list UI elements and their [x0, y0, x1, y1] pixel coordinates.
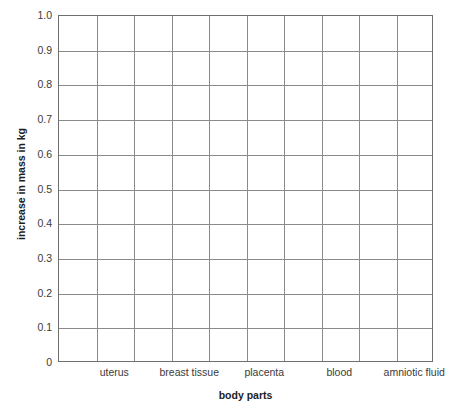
plot-grid-area [58, 15, 433, 362]
x-tick-label-uterus: uterus [100, 366, 129, 378]
gridline-vertical [247, 16, 248, 361]
gridline-vertical [134, 16, 135, 361]
gridline-horizontal [59, 155, 432, 156]
gridline-horizontal [59, 120, 432, 121]
y-axis-tick-labels: 1.0 0.9 0.8 0.7 0.6 0.5 0.4 0.3 0.2 0.1 … [0, 0, 56, 415]
y-tick-label: 0.1 [0, 322, 52, 333]
y-tick-label: 0.9 [0, 44, 52, 55]
gridline-vertical [322, 16, 323, 361]
y-axis-title: increase in mass in kg [15, 84, 27, 284]
gridline-vertical [97, 16, 98, 361]
x-tick-label-blood: blood [326, 366, 352, 378]
gridline-horizontal [59, 224, 432, 225]
x-axis-tick-labels: uterus breast tissue placenta blood amni… [58, 366, 433, 382]
gridline-vertical [209, 16, 210, 361]
gridline-horizontal [59, 328, 432, 329]
gridline-horizontal [59, 85, 432, 86]
x-tick-label-breast-tissue: breast tissue [159, 366, 219, 378]
gridline-horizontal [59, 190, 432, 191]
y-tick-label: 0.2 [0, 287, 52, 298]
gridline-vertical [284, 16, 285, 361]
y-tick-label: 0 [0, 357, 52, 368]
gridline-horizontal [59, 294, 432, 295]
x-tick-label-amniotic-fluid: amniotic fluid [384, 366, 445, 378]
gridline-vertical [172, 16, 173, 361]
gridline-vertical [359, 16, 360, 361]
gridline-horizontal [59, 259, 432, 260]
gridline-vertical [397, 16, 398, 361]
x-axis-title: body parts [58, 389, 433, 401]
chart-container: 1.0 0.9 0.8 0.7 0.6 0.5 0.4 0.3 0.2 0.1 … [0, 0, 453, 415]
y-tick-label: 1.0 [0, 10, 52, 21]
x-tick-label-placenta: placenta [244, 366, 284, 378]
gridline-horizontal [59, 51, 432, 52]
